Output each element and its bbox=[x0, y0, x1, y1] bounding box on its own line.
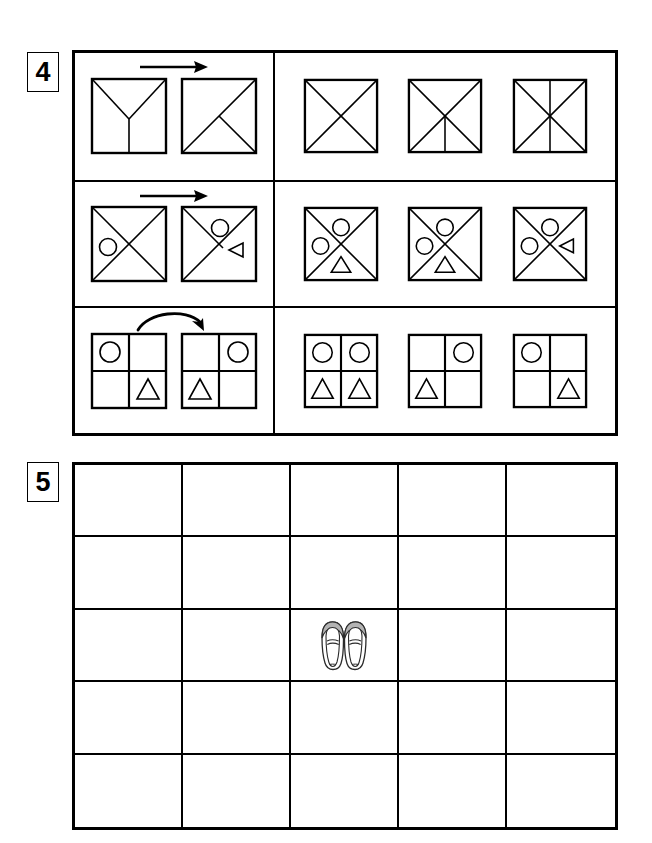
puzzle-row-3 bbox=[75, 306, 615, 433]
row-2-option-a[interactable] bbox=[302, 205, 380, 283]
left-shoe bbox=[322, 622, 344, 670]
circle-glyph bbox=[349, 342, 369, 362]
grid-cell-r2c2[interactable] bbox=[183, 537, 291, 609]
straight-right-arrow-icon bbox=[75, 186, 273, 206]
empty-answer-grid bbox=[72, 462, 618, 830]
circle-glyph bbox=[228, 342, 248, 362]
prompt-square-halfx-circle-triangle bbox=[179, 204, 259, 284]
grid-cell-r2c4[interactable] bbox=[399, 537, 507, 609]
grid-cell-r4c2[interactable] bbox=[183, 682, 291, 754]
puzzle-row-1-prompt bbox=[75, 53, 275, 180]
triangle-up-glyph bbox=[331, 257, 351, 273]
grid-cell-r5c5[interactable] bbox=[507, 755, 615, 827]
grid-cell-r3c1[interactable] bbox=[75, 610, 183, 682]
section-number-4: 4 bbox=[27, 52, 59, 92]
grid-cell-r3c4[interactable] bbox=[399, 610, 507, 682]
grid-cell-r2c5[interactable] bbox=[507, 537, 615, 609]
prompt-square-y-lines bbox=[89, 76, 169, 156]
circle-glyph bbox=[437, 219, 454, 236]
triangle-left-glyph bbox=[559, 239, 573, 253]
circle-glyph bbox=[454, 342, 474, 362]
triangle-up-glyph bbox=[348, 378, 369, 398]
triangle-left-glyph bbox=[229, 243, 243, 257]
grid-cell-r1c4[interactable] bbox=[399, 465, 507, 537]
circle-glyph bbox=[312, 238, 329, 255]
row-3-option-a[interactable] bbox=[302, 332, 380, 410]
triangle-up-glyph bbox=[311, 378, 332, 398]
prompt-quad-circle-tl-triangle-br bbox=[89, 331, 169, 411]
puzzle-row-2-options bbox=[275, 182, 615, 307]
grid-cell-r1c5[interactable] bbox=[507, 465, 615, 537]
circle-glyph bbox=[416, 238, 433, 255]
grid-cell-r1c2[interactable] bbox=[183, 465, 291, 537]
circle-glyph bbox=[332, 219, 349, 236]
row-3-option-c[interactable] bbox=[511, 332, 589, 410]
row-1-option-b[interactable] bbox=[406, 77, 484, 155]
analogy-puzzle-panel bbox=[72, 50, 618, 436]
grid-cell-r5c3[interactable] bbox=[291, 755, 399, 827]
grid-cell-r1c3[interactable] bbox=[291, 465, 399, 537]
puzzle-row-1-options bbox=[275, 53, 615, 180]
grid-cell-r5c1[interactable] bbox=[75, 755, 183, 827]
circle-glyph bbox=[212, 219, 229, 236]
triangle-up-glyph bbox=[557, 378, 578, 398]
circle-glyph bbox=[521, 238, 538, 255]
grid-cell-r3c2[interactable] bbox=[183, 610, 291, 682]
grid-cell-r4c3[interactable] bbox=[291, 682, 399, 754]
circle-glyph bbox=[541, 219, 558, 236]
puzzle-row-3-prompt bbox=[75, 308, 275, 433]
grid-cell-r3c3[interactable] bbox=[291, 610, 399, 682]
row-1-option-c[interactable] bbox=[511, 77, 589, 155]
row-2-option-c[interactable] bbox=[511, 205, 589, 283]
row-2-option-b[interactable] bbox=[406, 205, 484, 283]
circle-glyph bbox=[521, 342, 541, 362]
grid-cell-r4c1[interactable] bbox=[75, 682, 183, 754]
grid-cell-r5c4[interactable] bbox=[399, 755, 507, 827]
grid-cell-r4c4[interactable] bbox=[399, 682, 507, 754]
shoes-icon bbox=[291, 610, 397, 680]
grid-cell-r5c2[interactable] bbox=[183, 755, 291, 827]
row-3-option-b[interactable] bbox=[406, 332, 484, 410]
puzzle-row-1 bbox=[75, 53, 615, 180]
grid-cell-r3c5[interactable] bbox=[507, 610, 615, 682]
puzzle-row-2-prompt bbox=[75, 182, 275, 307]
grid-cell-r1c1[interactable] bbox=[75, 465, 183, 537]
circle-glyph bbox=[100, 238, 117, 255]
prompt-square-x-circle-left bbox=[89, 204, 169, 284]
grid-cell-r4c5[interactable] bbox=[507, 682, 615, 754]
triangle-up-glyph bbox=[137, 379, 159, 399]
triangle-up-glyph bbox=[435, 257, 455, 273]
straight-right-arrow-icon bbox=[75, 57, 273, 77]
grid-cell-r2c3[interactable] bbox=[291, 537, 399, 609]
section-number-5: 5 bbox=[27, 462, 59, 502]
puzzle-row-3-options bbox=[275, 308, 615, 433]
prompt-square-diag-plus-half bbox=[179, 76, 259, 156]
row-1-option-a[interactable] bbox=[302, 77, 380, 155]
circle-glyph bbox=[100, 342, 120, 362]
triangle-up-glyph bbox=[189, 379, 211, 399]
right-shoe bbox=[345, 622, 367, 670]
circle-glyph bbox=[312, 342, 332, 362]
puzzle-row-2 bbox=[75, 180, 615, 307]
grid-cell-r2c1[interactable] bbox=[75, 537, 183, 609]
triangle-up-glyph bbox=[416, 378, 437, 398]
prompt-quad-circle-tr-triangle-bl bbox=[179, 331, 259, 411]
